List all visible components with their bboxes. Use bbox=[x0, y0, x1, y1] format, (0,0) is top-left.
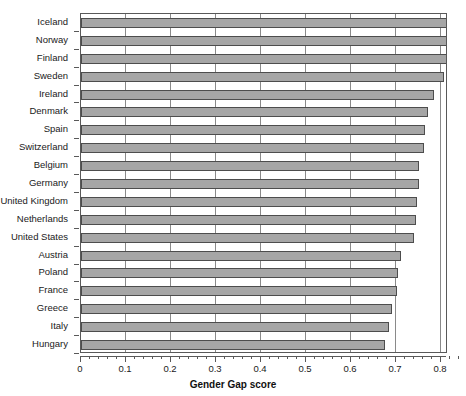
x-axis-major-tick-0.7 bbox=[395, 356, 396, 362]
bar-greece bbox=[81, 304, 392, 314]
x-axis-minor-tick bbox=[404, 356, 405, 359]
x-axis-minor-tick bbox=[278, 356, 279, 359]
y-axis-label-switzerland: Switzerland bbox=[19, 142, 68, 152]
y-axis-tick bbox=[74, 228, 79, 229]
x-axis-minor-tick bbox=[233, 356, 234, 359]
bar-row bbox=[81, 107, 446, 117]
x-axis-minor-tick bbox=[377, 356, 378, 359]
x-axis-minor-tick bbox=[269, 356, 270, 359]
bar-germany bbox=[81, 179, 419, 189]
bar-row bbox=[81, 251, 446, 261]
x-axis-minor-tick bbox=[242, 356, 243, 359]
bar-row bbox=[81, 72, 446, 82]
y-axis-label-united-kingdom: United Kingdom bbox=[0, 196, 68, 206]
bar-row bbox=[81, 268, 446, 278]
y-axis-label-germany: Germany bbox=[29, 178, 68, 188]
bar-belgium bbox=[81, 161, 419, 171]
bar-row bbox=[81, 125, 446, 135]
x-axis-major-tick-0.8 bbox=[440, 356, 441, 362]
x-axis-minor-tick bbox=[152, 356, 153, 359]
x-axis-minor-tick bbox=[116, 356, 117, 359]
y-axis-tick bbox=[74, 353, 79, 354]
bar-row bbox=[81, 340, 446, 350]
x-axis-tick-label-0.1: 0.1 bbox=[118, 363, 131, 374]
y-axis-label-denmark: Denmark bbox=[29, 106, 68, 116]
y-axis-tick bbox=[74, 281, 79, 282]
y-axis-tick bbox=[74, 156, 79, 157]
y-axis-tick bbox=[74, 299, 79, 300]
x-axis-tick-label-0: 0 bbox=[77, 363, 82, 374]
x-axis-minor-tick bbox=[197, 356, 198, 359]
bar-italy bbox=[81, 322, 389, 332]
bar-row bbox=[81, 215, 446, 225]
y-axis-label-hungary: Hungary bbox=[32, 339, 68, 349]
bar-row bbox=[81, 286, 446, 296]
bar-iceland bbox=[81, 18, 446, 28]
x-axis-minor-tick bbox=[449, 356, 450, 359]
y-axis-tick bbox=[74, 192, 79, 193]
bar-row bbox=[81, 18, 446, 28]
bar-row bbox=[81, 197, 446, 207]
y-axis-label-spain: Spain bbox=[44, 124, 68, 134]
x-axis-major-tick-0 bbox=[80, 356, 81, 362]
x-axis-minor-tick bbox=[314, 356, 315, 359]
y-axis-tick bbox=[74, 49, 79, 50]
x-axis-minor-tick bbox=[161, 356, 162, 359]
bar-norway bbox=[81, 36, 446, 46]
plot-area bbox=[80, 13, 447, 353]
y-axis-label-norway: Norway bbox=[36, 35, 68, 45]
x-axis-title: Gender Gap score bbox=[0, 379, 466, 390]
bar-poland bbox=[81, 268, 398, 278]
y-axis-label-ireland: Ireland bbox=[39, 89, 68, 99]
y-axis-tick bbox=[74, 67, 79, 68]
x-axis-minor-tick bbox=[422, 356, 423, 359]
x-axis-minor-tick bbox=[431, 356, 432, 359]
x-axis-major-tick-0.2 bbox=[170, 356, 171, 362]
x-axis-minor-tick bbox=[224, 356, 225, 359]
bar-denmark bbox=[81, 107, 428, 117]
bar-united-kingdom bbox=[81, 197, 417, 207]
x-axis-tick-label-0.7: 0.7 bbox=[388, 363, 401, 374]
bar-spain bbox=[81, 125, 425, 135]
x-axis-minor-tick bbox=[179, 356, 180, 359]
bar-row bbox=[81, 304, 446, 314]
x-axis-tick-label-0.3: 0.3 bbox=[208, 363, 221, 374]
x-axis-minor-tick bbox=[368, 356, 369, 359]
bar-sweden bbox=[81, 72, 444, 82]
x-axis-minor-tick bbox=[341, 356, 342, 359]
bar-row bbox=[81, 161, 446, 171]
x-axis-major-tick-0.1 bbox=[125, 356, 126, 362]
y-axis-tick bbox=[74, 85, 79, 86]
y-axis-tick bbox=[74, 138, 79, 139]
y-axis-label-italy: Italy bbox=[51, 321, 68, 331]
y-axis-labels: IcelandNorwayFinlandSwedenIrelandDenmark… bbox=[0, 13, 76, 353]
y-axis-tick bbox=[74, 102, 79, 103]
gender-gap-bar-chart: IcelandNorwayFinlandSwedenIrelandDenmark… bbox=[0, 0, 466, 396]
x-axis-minor-tick bbox=[386, 356, 387, 359]
x-axis-minor-tick bbox=[107, 356, 108, 359]
y-axis-tick bbox=[74, 335, 79, 336]
x-axis-minor-tick bbox=[359, 356, 360, 359]
y-axis-label-greece: Greece bbox=[37, 303, 68, 313]
x-axis-minor-tick bbox=[134, 356, 135, 359]
y-axis-label-netherlands: Netherlands bbox=[17, 214, 68, 224]
bar-netherlands bbox=[81, 215, 416, 225]
x-axis-major-tick-0.4 bbox=[260, 356, 261, 362]
bar-united-states bbox=[81, 233, 414, 243]
y-axis-label-poland: Poland bbox=[38, 267, 68, 277]
y-axis-label-france: France bbox=[38, 285, 68, 295]
x-axis-tick-label-0.2: 0.2 bbox=[163, 363, 176, 374]
bar-row bbox=[81, 322, 446, 332]
x-axis-minor-tick bbox=[206, 356, 207, 359]
x-axis-minor-tick bbox=[188, 356, 189, 359]
y-axis-tick bbox=[74, 246, 79, 247]
bar-row bbox=[81, 233, 446, 243]
x-axis-tick-label-0.6: 0.6 bbox=[343, 363, 356, 374]
x-axis-minor-tick bbox=[323, 356, 324, 359]
x-axis-minor-tick bbox=[143, 356, 144, 359]
bar-finland bbox=[81, 54, 446, 64]
x-axis-minor-tick bbox=[98, 356, 99, 359]
x-axis-major-tick-0.5 bbox=[305, 356, 306, 362]
x-axis-minor-tick bbox=[296, 356, 297, 359]
y-axis-label-austria: Austria bbox=[38, 250, 68, 260]
